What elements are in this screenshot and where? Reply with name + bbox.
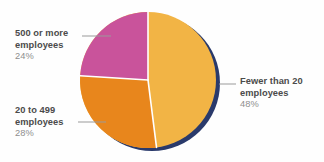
pie-slice-20-to-499[interactable]	[80, 76, 157, 148]
callout-label-20-to-499: 20 to 499 employees 28%	[15, 105, 64, 140]
callout-label-500-or-more: 500 or more employees 24%	[15, 28, 68, 63]
callout-label-500-or-more-line2: employees	[15, 40, 68, 52]
callout-value-fewer-than-20: 48%	[240, 99, 303, 111]
callout-label-fewer-than-20-line1: Fewer than 20	[240, 76, 303, 88]
callout-label-500-or-more-line1: 500 or more	[15, 28, 68, 40]
pie-slice-500-or-more[interactable]	[80, 12, 148, 80]
callout-value-20-to-499: 28%	[15, 128, 64, 140]
pie-chart-figure: 500 or more employees 24% 20 to 499 empl…	[0, 0, 324, 162]
callout-label-fewer-than-20-line2: employees	[240, 88, 303, 100]
callout-value-500-or-more: 24%	[15, 51, 68, 63]
callout-label-fewer-than-20: Fewer than 20 employees 48%	[240, 76, 303, 111]
callout-label-20-to-499-line1: 20 to 499	[15, 105, 64, 117]
callout-label-20-to-499-line2: employees	[15, 117, 64, 129]
